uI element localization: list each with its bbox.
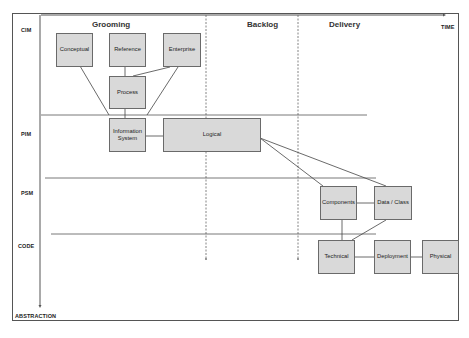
box-components: Components (320, 186, 357, 220)
box-physical: Physical (422, 240, 459, 274)
phase-backlog: Backlog (247, 20, 278, 29)
box-logical: Logical (163, 118, 261, 152)
box-enterprise: Enterprise (163, 33, 201, 67)
level-pim: PIM (21, 131, 31, 137)
box-deployment: Deployment (374, 240, 411, 274)
box-reference: Reference (109, 33, 146, 67)
box-data-class: Data / Class (374, 186, 412, 220)
box-information-system: Information System (109, 118, 146, 152)
phase-delivery: Delivery (329, 20, 360, 29)
abstraction-axis-label: ABSTRACTION (15, 313, 56, 319)
box-technical: Technical (318, 240, 355, 274)
phase-grooming: Grooming (92, 20, 130, 29)
time-axis-label: TIME (441, 24, 455, 30)
box-process: Process (109, 76, 146, 109)
level-code: CODE (18, 243, 34, 249)
box-conceptual: Conceptual (56, 33, 93, 67)
level-cim: CIM (21, 27, 31, 33)
level-psm: PSM (21, 190, 33, 196)
